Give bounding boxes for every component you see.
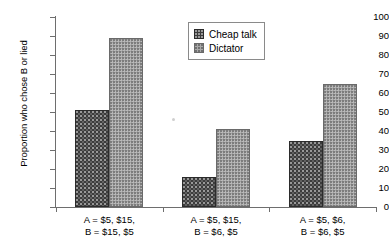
y-tick-mark [50,36,55,37]
x-category-label-line2: B = $6, $5 [163,226,270,238]
legend-item-dictator: Dictator [194,41,257,55]
y-tick-mark [50,169,55,170]
bar-cheap-talk-group-3 [289,141,323,208]
x-tick-mark [56,207,57,212]
bar-dictator-group-2 [216,129,250,207]
x-category-label-2: A = $5, $15,B = $6, $5 [163,214,270,238]
y-tick-mark [50,55,55,56]
x-category-label-line1: A = $5, $15, [190,214,241,225]
x-category-label-line1: A = $5, $15, [84,214,135,225]
x-axis-line [55,207,377,208]
x-category-label-1: A = $5, $15,B = $15, $5 [56,214,163,238]
legend-swatch-icon-dictator [194,43,204,53]
x-category-label-line2: B = $6, $5 [269,226,376,238]
x-tick-mark [376,207,377,212]
legend-label-dictator: Dictator [209,43,243,54]
y-tick-mark [50,150,55,151]
legend-label-cheap-talk: Cheap talk [209,29,257,40]
y-tick-mark [50,207,55,208]
legend-swatch-icon-cheap-talk [194,29,204,39]
x-tick-mark [269,207,270,212]
y-tick-mark [50,17,55,18]
y-tick-mark [50,74,55,75]
x-tick-mark [163,207,164,212]
y-tick-mark [50,93,55,94]
bar-cheap-talk-group-2 [182,177,216,207]
bar-cheap-talk-group-1 [75,110,109,207]
y-tick-mark [50,112,55,113]
x-category-label-line1: A = $5, $6, [300,214,346,225]
x-category-label-3: A = $5, $6,B = $6, $5 [269,214,376,238]
x-category-label-line2: B = $15, $5 [56,226,163,238]
bar-dictator-group-1 [109,38,143,207]
legend-item-cheap-talk: Cheap talk [194,27,257,41]
y-tick-mark [50,131,55,132]
bar-dictator-group-3 [323,84,357,208]
bar-chart: Proportion who chose B or lied 100908070… [0,0,389,251]
chart-legend: Cheap talk Dictator [188,22,265,60]
scan-artifact-speck [172,118,175,121]
y-tick-mark [50,188,55,189]
y-axis-title: Proportion who chose B or lied [18,14,29,194]
